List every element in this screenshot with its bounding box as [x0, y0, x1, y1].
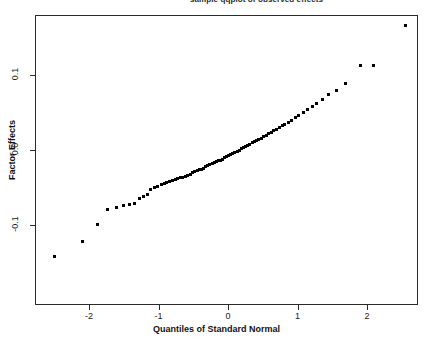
y-axis-title: Factor Effects — [7, 115, 17, 185]
figure-title-fragment: sample qqplot of observed effects — [190, 0, 430, 4]
qq-plot-figure: sample qqplot of observed effects -2-101… — [0, 0, 433, 346]
x-axis-tick-label: 2 — [364, 311, 369, 321]
x-axis-tick — [159, 305, 160, 310]
x-axis-tick — [298, 305, 299, 310]
x-axis-tick-label: 0 — [225, 311, 230, 321]
x-axis-tick-label: -1 — [154, 311, 162, 321]
x-axis-tick-label: -2 — [85, 311, 93, 321]
y-axis-tick — [30, 225, 35, 226]
plot-frame — [35, 15, 418, 305]
y-axis-tick — [30, 150, 35, 151]
y-axis-tick-label: -0.1 — [10, 211, 20, 237]
y-axis-tick-label: 0.1 — [10, 61, 20, 87]
x-axis-tick — [367, 305, 368, 310]
x-axis-tick — [89, 305, 90, 310]
x-axis-tick — [228, 305, 229, 310]
x-axis-tick-label: 1 — [295, 311, 300, 321]
x-axis-title: Quantiles of Standard Normal — [0, 324, 433, 334]
y-axis-tick — [30, 75, 35, 76]
